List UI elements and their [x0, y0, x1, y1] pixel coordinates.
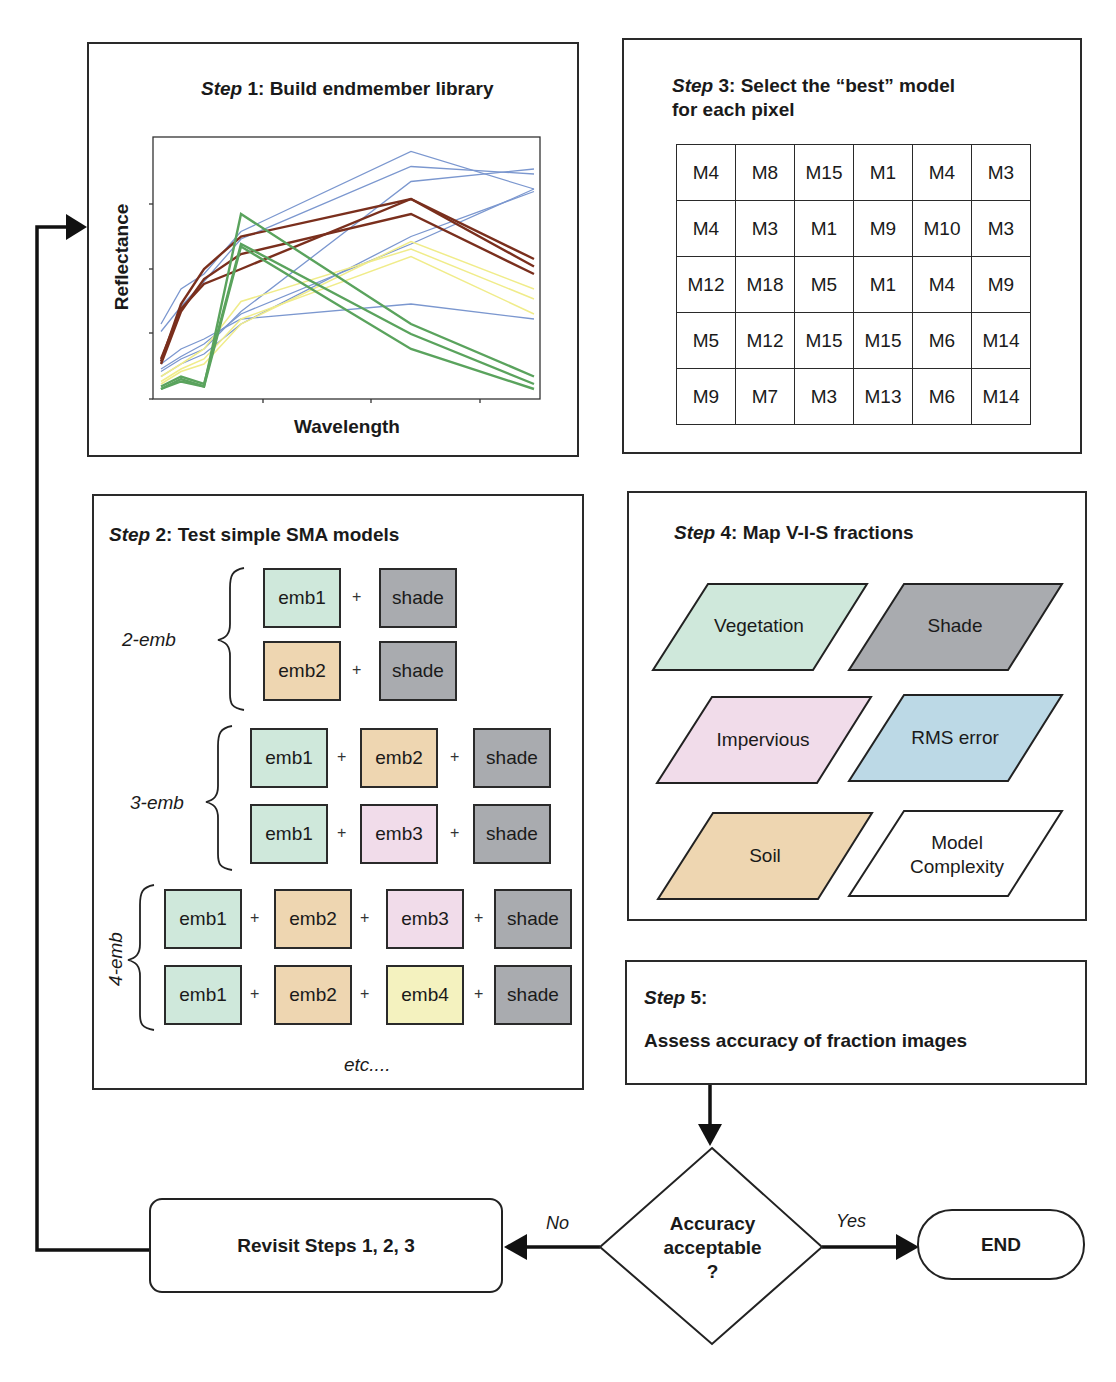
step5-text: Assess accuracy of fraction images — [644, 1029, 967, 1053]
spectra-chart — [89, 44, 581, 459]
loop-back-arrowhead — [66, 214, 87, 240]
grid-row: M4M3M1M9M10M3 — [677, 201, 1031, 257]
grid-cell: M7 — [736, 369, 795, 425]
grid-row: M5M12M15M15M6M14 — [677, 313, 1031, 369]
grid-cell: M15 — [795, 145, 854, 201]
step3-panel: Step 3: Select the “best” model for each… — [622, 38, 1082, 454]
end-label: END — [918, 1210, 1084, 1279]
grid-cell: M4 — [677, 145, 736, 201]
grid-cell: M12 — [736, 313, 795, 369]
grid-cell: M9 — [854, 201, 913, 257]
step3-title: Step 3: Select the “best” model for each… — [672, 74, 955, 122]
label-2emb: 2-emb — [122, 629, 176, 651]
step4-panel: Step 4: Map V-I-S fractions Vegetation S… — [627, 491, 1087, 921]
grid-cell: M3 — [736, 201, 795, 257]
grid-cell: M3 — [795, 369, 854, 425]
brace-4emb — [128, 885, 154, 1030]
down-arrowhead — [698, 1124, 722, 1146]
grid-cell: M18 — [736, 257, 795, 313]
grid-cell: M15 — [854, 313, 913, 369]
grid-cell: M4 — [913, 257, 972, 313]
impervious-label: Impervious — [673, 725, 853, 755]
grid-row: M4M8M15M1M4M3 — [677, 145, 1031, 201]
grid-row: M9M7M3M13M6M14 — [677, 369, 1031, 425]
no-arrowhead — [504, 1234, 527, 1260]
grid-cell: M14 — [972, 313, 1031, 369]
soil-label: Soil — [675, 841, 855, 871]
brace-2emb — [218, 568, 244, 710]
step5-panel: Step 5: Assess accuracy of fraction imag… — [625, 960, 1087, 1085]
grid-cell: M1 — [854, 257, 913, 313]
grid-cell: M14 — [972, 369, 1031, 425]
no-label: No — [546, 1213, 569, 1234]
grid-cell: M15 — [795, 313, 854, 369]
grid-cell: M3 — [972, 145, 1031, 201]
grid-cell: M3 — [972, 201, 1031, 257]
grid-cell: M6 — [913, 369, 972, 425]
grid-cell: M1 — [854, 145, 913, 201]
grid-cell: M8 — [736, 145, 795, 201]
yes-label: Yes — [836, 1211, 866, 1232]
label-4emb: 4-emb — [105, 932, 127, 986]
rms-error-label: RMS error — [865, 723, 1045, 753]
x-axis-label: Wavelength — [294, 416, 400, 438]
etc-label: etc.... — [344, 1054, 390, 1076]
grid-cell: M9 — [972, 257, 1031, 313]
yes-arrowhead — [896, 1234, 919, 1260]
step1-panel: Step 1: Build endmember library Reflecta… — [87, 42, 579, 457]
pixel-model-grid: M4M8M15M1M4M3M4M3M1M9M10M3M12M18M5M1M4M9… — [676, 144, 1031, 425]
model-complexity-label: Model Complexity — [887, 828, 1027, 882]
grid-cell: M1 — [795, 201, 854, 257]
grid-cell: M10 — [913, 201, 972, 257]
decision-text: Accuracy acceptable ? — [640, 1212, 785, 1284]
grid-cell: M13 — [854, 369, 913, 425]
grid-cell: M5 — [677, 313, 736, 369]
step5-title: Step 5: — [644, 986, 707, 1010]
grid-cell: M9 — [677, 369, 736, 425]
grid-cell: M5 — [795, 257, 854, 313]
vegetation-label: Vegetation — [669, 611, 849, 641]
grid-cell: M6 — [913, 313, 972, 369]
grid-cell: M4 — [677, 201, 736, 257]
revisit-label[interactable]: Revisit Steps 1, 2, 3 — [150, 1199, 502, 1292]
step2-panel: Step 2: Test simple SMA models emb1+shad… — [92, 494, 584, 1090]
label-3emb: 3-emb — [130, 792, 184, 814]
grid-cell: M4 — [913, 145, 972, 201]
grid-row: M12M18M5M1M4M9 — [677, 257, 1031, 313]
y-axis-label: Reflectance — [111, 202, 133, 312]
grid-cell: M12 — [677, 257, 736, 313]
shade-label: Shade — [865, 611, 1045, 641]
brace-3emb — [206, 726, 232, 870]
